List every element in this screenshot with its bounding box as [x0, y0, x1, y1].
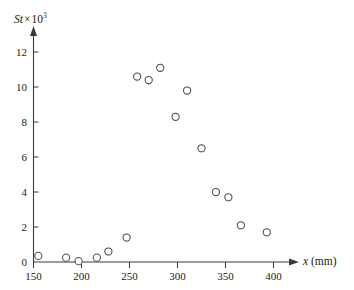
y-tick-label: 8: [5, 117, 27, 128]
data-point-marker: [63, 254, 70, 261]
x-tick-label: 150: [17, 271, 51, 282]
data-point-markers: [35, 64, 271, 265]
data-point-marker: [145, 76, 152, 83]
data-point-marker: [263, 229, 270, 236]
data-point-marker: [134, 73, 141, 80]
data-point-marker: [35, 252, 42, 259]
data-point-marker: [172, 113, 179, 120]
x-tick-label: 250: [113, 271, 147, 282]
y-tick-label: 4: [5, 187, 27, 198]
x-tick-marks: [34, 262, 274, 268]
data-point-marker: [237, 222, 244, 229]
data-point-marker: [105, 248, 112, 255]
data-point-marker: [225, 194, 232, 201]
x-tick-label: 300: [161, 271, 195, 282]
data-point-marker: [75, 258, 82, 265]
y-tick-label: 0: [5, 257, 27, 268]
y-tick-label: 2: [5, 222, 27, 233]
y-tick-marks: [34, 52, 39, 227]
y-tick-label: 10: [5, 82, 27, 93]
x-tick-label: 400: [257, 271, 291, 282]
axes-group: [30, 26, 299, 266]
x-tick-label: 350: [209, 271, 243, 282]
data-point-marker: [123, 234, 130, 241]
data-point-marker: [93, 254, 100, 261]
data-point-marker: [198, 145, 205, 152]
y-axis-arrow-icon: [30, 26, 37, 36]
data-point-marker: [157, 64, 164, 71]
scatter-plot-figure: St×103 x (mm) 024681012 1502002503003504…: [0, 0, 354, 290]
y-tick-label: 6: [5, 152, 27, 163]
y-tick-label: 12: [5, 47, 27, 58]
x-tick-label: 200: [65, 271, 99, 282]
data-point-marker: [212, 188, 219, 195]
x-axis-arrow-icon: [289, 259, 299, 266]
data-point-marker: [184, 87, 191, 94]
plot-canvas: [0, 0, 354, 290]
